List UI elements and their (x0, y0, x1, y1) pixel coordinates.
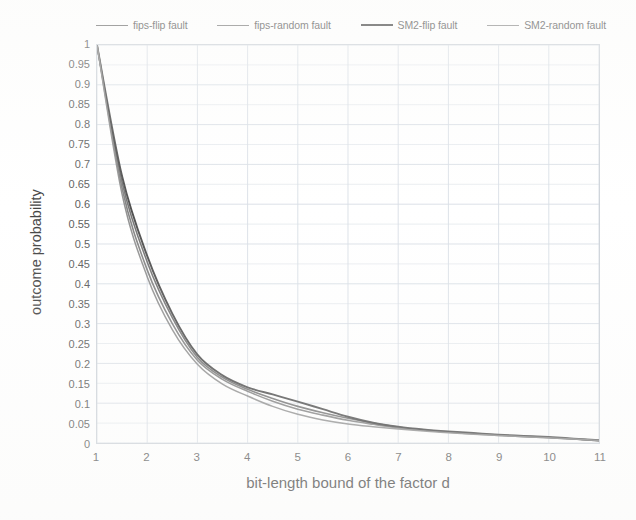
y-axis-tick-label: 0.2 (44, 359, 90, 370)
legend-label: fips-flip fault (133, 19, 188, 31)
y-axis-tick-label: 0.15 (44, 379, 90, 390)
legend-line-swatch (217, 25, 249, 26)
x-axis-tick-label: 4 (227, 450, 267, 464)
y-axis-tick-label: 0.3 (44, 319, 90, 330)
y-axis-tick-label: 0.05 (44, 419, 90, 430)
legend-item-fips-random-fault[interactable]: fips-random fault (217, 19, 331, 31)
legend-item-sm2-flip-fault[interactable]: SM2-flip fault (361, 19, 458, 31)
legend-label: fips-random fault (254, 19, 331, 31)
x-axis-tick-label: 1 (76, 450, 116, 464)
series-line (97, 45, 599, 441)
y-axis-tick-label: 0.85 (44, 99, 90, 110)
y-axis-tick-label: 0.8 (44, 119, 90, 130)
series-line (97, 45, 599, 440)
legend-label: SM2-flip fault (398, 19, 458, 31)
y-axis-tick-label: 0.4 (44, 279, 90, 290)
y-axis-tick-label: 0.5 (44, 239, 90, 250)
y-axis-tick-label: 0.7 (44, 159, 90, 170)
legend-line-swatch (487, 25, 519, 26)
y-axis-title: outcome probability (28, 152, 44, 352)
y-axis-tick-label: 0.35 (44, 299, 90, 310)
x-axis-title: bit-length bound of the factor d (96, 474, 600, 491)
y-axis-tick-label: 0 (44, 439, 90, 450)
y-axis-tick-label: 0.6 (44, 199, 90, 210)
series-line (97, 45, 599, 441)
y-axis-tick-label: 0.9 (44, 79, 90, 90)
y-axis-tick-label: 0.1 (44, 399, 90, 410)
y-axis-tick-label: 0.25 (44, 339, 90, 350)
x-axis-tick-label: 11 (580, 450, 620, 464)
series-lines (97, 45, 599, 443)
x-axis-tick-label: 9 (479, 450, 519, 464)
legend-line-swatch (96, 25, 128, 26)
x-axis-tick-label: 6 (328, 450, 368, 464)
series-line (97, 45, 599, 441)
x-axis-tick-label: 2 (126, 450, 166, 464)
y-axis-tick-label: 0.65 (44, 179, 90, 190)
y-axis-tick-label: 1 (44, 39, 90, 50)
y-axis-tick-label: 0.75 (44, 139, 90, 150)
x-axis-tick-label: 8 (429, 450, 469, 464)
legend-label: SM2-random fault (524, 19, 606, 31)
y-axis-ticks: 00.050.10.150.20.250.30.350.40.450.50.55… (42, 44, 90, 444)
legend-item-fips-flip-fault[interactable]: fips-flip fault (96, 19, 188, 31)
y-axis-tick-label: 0.45 (44, 259, 90, 270)
x-axis-tick-label: 5 (278, 450, 318, 464)
chart-legend: fips-flip fault fips-random fault SM2-fl… (96, 14, 606, 36)
x-axis-ticks: 1234567891011 (96, 450, 600, 468)
x-axis-tick-label: 3 (177, 450, 217, 464)
y-axis-tick-label: 0.55 (44, 219, 90, 230)
chart-container: fips-flip fault fips-random fault SM2-fl… (0, 0, 636, 520)
legend-line-swatch (361, 24, 393, 26)
legend-item-sm2-random-fault[interactable]: SM2-random fault (487, 19, 606, 31)
x-axis-tick-label: 7 (378, 450, 418, 464)
x-axis-tick-label: 10 (530, 450, 570, 464)
y-axis-tick-label: 0.95 (44, 59, 90, 70)
plot-area (96, 44, 600, 444)
